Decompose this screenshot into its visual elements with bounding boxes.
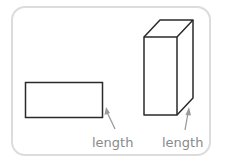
rectangle-length-label: length (92, 136, 133, 149)
rectangular-prism-shape (144, 20, 193, 115)
rectangle-length-arrow (105, 107, 116, 129)
prism-length-arrow (185, 107, 191, 130)
rectangle-shape (26, 83, 103, 118)
prism-length-label: length (162, 136, 203, 149)
